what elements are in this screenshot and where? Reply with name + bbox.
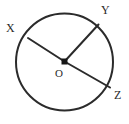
segment-oz <box>65 62 111 88</box>
circle-geometry-figure: X Y Z O <box>0 0 129 124</box>
geometry-canvas <box>0 0 129 124</box>
segment-ox <box>28 38 65 62</box>
point-label-y: Y <box>101 4 110 16</box>
point-label-o: O <box>55 67 63 79</box>
center-point-marker <box>62 59 68 65</box>
segment-oy <box>65 25 99 62</box>
point-label-z: Z <box>114 89 121 101</box>
point-label-x: X <box>6 22 15 34</box>
